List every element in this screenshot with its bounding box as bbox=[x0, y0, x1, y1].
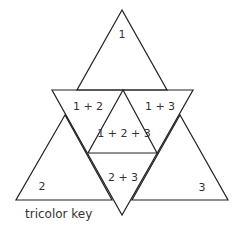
triangle-1 bbox=[77, 10, 167, 90]
label-region-3: 3 bbox=[199, 181, 206, 194]
label-region-1: 1 bbox=[119, 28, 126, 41]
label-region-1-2: 1 + 2 bbox=[73, 100, 103, 113]
label-region-2: 2 bbox=[39, 180, 46, 193]
label-region-2-3: 2 + 3 bbox=[108, 171, 138, 184]
label-region-1-3: 1 + 3 bbox=[145, 100, 175, 113]
label-region-1-2-3: 1 + 2 + 3 bbox=[97, 127, 150, 140]
diagram-caption: tricolor key bbox=[25, 207, 92, 221]
